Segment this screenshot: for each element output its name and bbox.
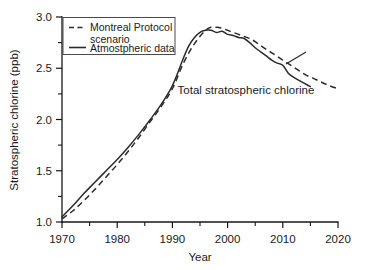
y-tick-label: 1.5 [36, 165, 52, 177]
x-tick-label: 2020 [325, 233, 351, 245]
annotation-text: Total stratospheric chlorine [178, 84, 315, 96]
chart-legend: Montreal Protocol scenario Atmostpheric … [63, 18, 175, 55]
series-group [62, 27, 338, 219]
chart-container: 1.0 1.5 2.0 2.5 3.0 1970 1980 1990 2000 … [0, 0, 368, 270]
x-tick-label: 2000 [215, 233, 241, 245]
y-tick-label: 1.0 [36, 216, 52, 228]
x-tick-label: 1990 [160, 233, 186, 245]
series-montreal-protocol-scenario [62, 27, 338, 219]
annotation-leader-line [286, 52, 306, 64]
stratospheric-chlorine-line-chart: 1.0 1.5 2.0 2.5 3.0 1970 1980 1990 2000 … [0, 0, 368, 270]
x-axis-title: Year [188, 251, 211, 263]
y-axis-tick-labels: 1.0 1.5 2.0 2.5 3.0 [36, 11, 52, 228]
y-axis-major-ticks [56, 17, 62, 222]
annotation-total-stratospheric-chlorine: Total stratospheric chlorine [178, 52, 315, 96]
x-tick-label: 1970 [49, 233, 75, 245]
y-axis-title: Stratospheric chlorine (ppb) [8, 49, 20, 190]
y-tick-label: 2.0 [36, 114, 52, 126]
x-tick-label: 1980 [104, 233, 130, 245]
y-tick-label: 3.0 [36, 11, 52, 23]
x-tick-label: 2010 [270, 233, 296, 245]
legend-label-montreal-line1: Montreal Protocol [90, 21, 172, 33]
x-axis-tick-labels: 1970 1980 1990 2000 2010 2020 [49, 233, 351, 245]
legend-label-atmospheric: Atmostpheric data [90, 42, 175, 54]
y-tick-label: 2.5 [36, 62, 52, 74]
